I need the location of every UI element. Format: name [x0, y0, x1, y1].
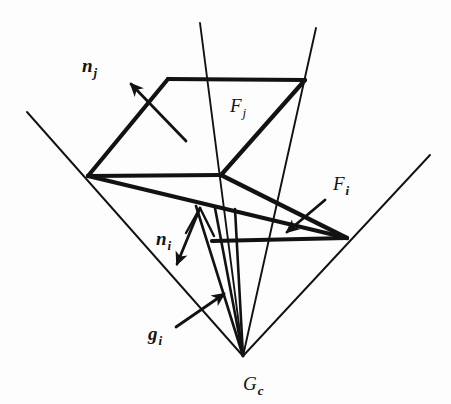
- label-grasp-center-apex: Gc: [243, 373, 264, 398]
- label-subscript: i: [159, 333, 163, 348]
- apex-fan-group: [196, 206, 243, 356]
- labels-group: njFjFinigiGc: [82, 55, 350, 398]
- label-subscript: c: [258, 383, 264, 398]
- label-subscript: i: [168, 238, 172, 253]
- label-subscript: i: [346, 183, 350, 198]
- grasp-arrow-i: [176, 294, 224, 327]
- lower-face-bottom-edge: [212, 238, 347, 241]
- center-to-right-edge: [221, 175, 347, 238]
- label-grasp-direction-i: gi: [147, 323, 163, 348]
- label-normal-vector-face-j: nj: [82, 55, 98, 80]
- label-face-j: Fj: [229, 95, 247, 120]
- label-base: n: [82, 55, 93, 76]
- lower-face-diagonal: [88, 176, 347, 238]
- label-base: F: [229, 95, 242, 116]
- upper-face-left-edge: [88, 79, 168, 176]
- label-base: G: [243, 373, 257, 394]
- middle-horizontal-edge: [88, 175, 221, 176]
- cone-ray-upper-left-outer: [27, 112, 243, 356]
- figure-canvas: njFjFinigiGc: [0, 0, 451, 404]
- normal-arrow-i: [177, 208, 200, 264]
- geometry-diagram: njFjFinigiGc: [0, 0, 451, 404]
- upper-face-top-edge: [168, 79, 305, 80]
- label-base: g: [147, 323, 158, 344]
- label-base: n: [156, 228, 167, 249]
- label-face-i: Fi: [332, 173, 350, 198]
- label-normal-vector-face-i: ni: [156, 228, 172, 253]
- label-base: F: [332, 173, 345, 194]
